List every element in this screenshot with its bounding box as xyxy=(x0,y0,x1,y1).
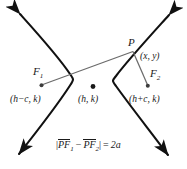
focus2-coordinate-label: (h+c, k) xyxy=(129,95,160,105)
center-coordinate-label: (h, k) xyxy=(78,95,98,105)
focus2-dot xyxy=(146,84,150,88)
right-branch-curve xyxy=(113,15,169,155)
center-dot xyxy=(91,84,96,89)
focus2-label-letter: F xyxy=(150,67,157,79)
focus2-label: F2 xyxy=(150,68,160,82)
focus2-label-subscript: 2 xyxy=(157,74,161,82)
focus1-label-letter: F xyxy=(33,65,40,77)
point-p-coordinate-label: (x, y) xyxy=(140,52,160,62)
equation-term2: PF xyxy=(83,139,95,150)
definition-equation: |PF1−PF2|=2a xyxy=(56,139,121,153)
focus1-dot xyxy=(40,83,44,87)
equation-close-bar: | xyxy=(99,139,101,150)
equation-minus-sign: − xyxy=(76,139,82,150)
equation-right-side: 2a xyxy=(111,139,121,150)
focus1-label-subscript: 1 xyxy=(40,72,44,80)
point-p-label: P xyxy=(128,37,135,48)
equation-equals-sign: = xyxy=(103,139,109,150)
hyperbola-figure: F1 (h−c, k) (h, k) F2 (h+c, k) P (x, y) … xyxy=(0,0,187,169)
focus1-coordinate-label: (h−c, k) xyxy=(10,95,41,105)
equation-term1: PF xyxy=(58,139,70,150)
equation-term1-subscript: 1 xyxy=(70,145,74,153)
focus1-label: F1 xyxy=(33,66,43,80)
segment-f1-to-p xyxy=(42,52,134,86)
